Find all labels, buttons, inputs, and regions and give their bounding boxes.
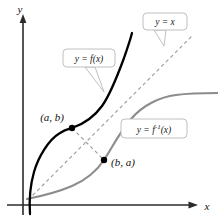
reflection-segment (72, 128, 104, 160)
x-axis-arrowhead (189, 201, 199, 208)
axes-group: y x (7, 3, 210, 215)
point-ab-label: (a, b) (40, 111, 64, 124)
point-ab-group: (a, b) (40, 111, 75, 131)
y-axis-label: y (17, 3, 23, 15)
callout-function: y = f(x) (63, 49, 115, 92)
callout-identity-tail (154, 30, 166, 46)
point-ba-group: (b, a) (101, 156, 135, 169)
callout-function-tail (85, 67, 104, 92)
callout-inverse-prefix: y = f (136, 125, 156, 135)
point-ab-marker (69, 125, 75, 131)
callout-identity-text: y = x (154, 17, 175, 27)
callout-inverse: y = f-1(x) (121, 119, 187, 138)
inverse-function-curve (27, 93, 218, 199)
inverse-function-figure: y x (a, b) (b, a) y = x (0, 0, 218, 224)
point-ba-label: (b, a) (111, 156, 135, 169)
x-axis-label: x (204, 200, 210, 212)
callout-identity: y = x (143, 13, 187, 46)
y-axis-arrowhead (20, 14, 27, 23)
callout-inverse-suffix: (x) (161, 125, 172, 136)
callout-function-text: y = f(x) (74, 54, 104, 65)
point-ba-marker (101, 157, 107, 163)
callout-inverse-text: y = f-1(x) (136, 123, 171, 136)
